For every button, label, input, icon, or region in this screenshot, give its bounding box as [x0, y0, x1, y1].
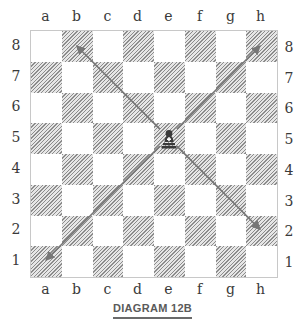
caption-text: DIAGRAM 12B [113, 302, 192, 319]
square-g1 [216, 246, 247, 277]
rank-label-5: 5 [6, 129, 26, 145]
square-h7 [246, 62, 277, 93]
file-label-d: d [122, 8, 153, 24]
square-d2 [123, 216, 154, 247]
file-label-g: g [215, 281, 246, 297]
file-label-h: h [245, 281, 276, 297]
square-h2 [246, 216, 277, 247]
square-f4 [185, 154, 216, 185]
rank-label-4: 4 [279, 162, 299, 178]
file-label-f: f [184, 281, 215, 297]
file-label-c: c [92, 8, 123, 24]
rank-label-3: 3 [279, 193, 299, 209]
file-label-c: c [92, 281, 123, 297]
rank-label-4: 4 [6, 160, 26, 176]
file-label-a: a [30, 281, 61, 297]
square-a1 [31, 246, 62, 277]
square-g3 [216, 185, 247, 216]
square-e7 [154, 62, 185, 93]
square-b8 [62, 31, 93, 62]
square-e6 [154, 93, 185, 124]
square-e4 [154, 154, 185, 185]
square-a7 [31, 62, 62, 93]
file-label-e: e [153, 281, 184, 297]
square-c2 [93, 216, 124, 247]
square-f5 [185, 123, 216, 154]
square-e8 [154, 31, 185, 62]
square-g5 [216, 123, 247, 154]
square-d7 [123, 62, 154, 93]
square-b6 [62, 93, 93, 124]
square-b3 [62, 185, 93, 216]
rank-label-2: 2 [6, 221, 26, 237]
square-b2 [62, 216, 93, 247]
rank-label-8: 8 [279, 39, 299, 55]
square-g8 [216, 31, 247, 62]
file-label-h: h [245, 8, 276, 24]
file-label-e: e [153, 8, 184, 24]
chess-board [30, 30, 278, 278]
square-g6 [216, 93, 247, 124]
rank-label-2: 2 [279, 223, 299, 239]
square-c6 [93, 93, 124, 124]
rank-label-6: 6 [279, 100, 299, 116]
file-label-b: b [61, 281, 92, 297]
rank-label-5: 5 [279, 131, 299, 147]
rank-label-1: 1 [279, 254, 299, 270]
square-c3 [93, 185, 124, 216]
square-b1 [62, 246, 93, 277]
square-h1 [246, 246, 277, 277]
square-c5 [93, 123, 124, 154]
square-e3 [154, 185, 185, 216]
square-e1 [154, 246, 185, 277]
rank-label-6: 6 [6, 98, 26, 114]
square-h4 [246, 154, 277, 185]
square-g2 [216, 216, 247, 247]
square-d8 [123, 31, 154, 62]
square-a6 [31, 93, 62, 124]
square-d3 [123, 185, 154, 216]
square-f2 [185, 216, 216, 247]
square-b5 [62, 123, 93, 154]
rank-label-7: 7 [279, 70, 299, 86]
square-d1 [123, 246, 154, 277]
file-label-g: g [215, 8, 246, 24]
square-a3 [31, 185, 62, 216]
square-f1 [185, 246, 216, 277]
square-g4 [216, 154, 247, 185]
rank-label-3: 3 [6, 191, 26, 207]
square-f7 [185, 62, 216, 93]
square-a2 [31, 216, 62, 247]
square-c1 [93, 246, 124, 277]
square-a4 [31, 154, 62, 185]
file-label-b: b [61, 8, 92, 24]
square-f8 [185, 31, 216, 62]
square-g7 [216, 62, 247, 93]
square-a8 [31, 31, 62, 62]
white-bishop-icon [154, 123, 185, 154]
square-h8 [246, 31, 277, 62]
square-b7 [62, 62, 93, 93]
square-d5 [123, 123, 154, 154]
file-label-f: f [184, 8, 215, 24]
rank-label-7: 7 [6, 68, 26, 84]
square-e2 [154, 216, 185, 247]
square-h5 [246, 123, 277, 154]
rank-label-1: 1 [6, 252, 26, 268]
file-label-a: a [30, 8, 61, 24]
square-a5 [31, 123, 62, 154]
square-f3 [185, 185, 216, 216]
diagram-caption: DIAGRAM 12B [0, 302, 305, 319]
file-label-d: d [122, 281, 153, 297]
square-f6 [185, 93, 216, 124]
rank-label-8: 8 [6, 37, 26, 53]
square-h6 [246, 93, 277, 124]
square-d6 [123, 93, 154, 124]
square-c7 [93, 62, 124, 93]
square-h3 [246, 185, 277, 216]
square-b4 [62, 154, 93, 185]
square-c4 [93, 154, 124, 185]
square-c8 [93, 31, 124, 62]
square-d4 [123, 154, 154, 185]
